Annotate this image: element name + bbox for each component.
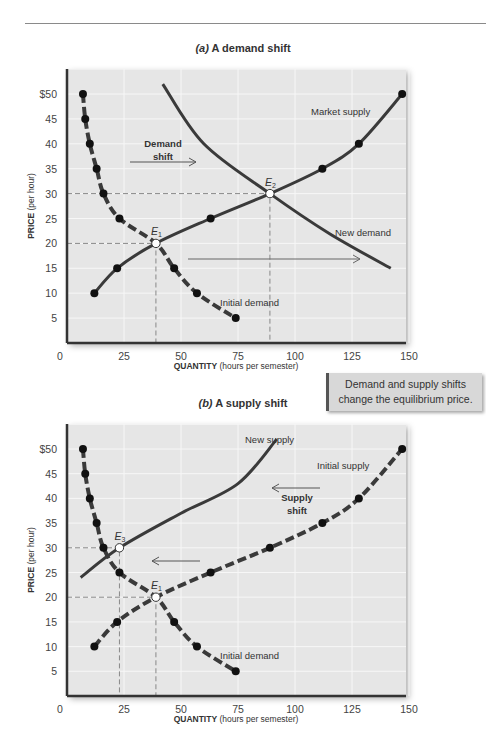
y-tick: 5 [51,665,57,677]
equilibrium-point [115,544,123,552]
data-point [115,569,123,577]
y-tick: 35 [45,517,57,529]
chart-b-supply-shift: E1E3New supplyInitial supplyInitial dema… [0,0,486,755]
data-point [90,643,98,651]
equilibrium-point [152,593,160,601]
new-supply-label: New supply [245,434,294,445]
y-axis-label-b: PRICE (per hour) [26,527,36,593]
y-tick: 40 [45,492,57,504]
y-tick: 15 [45,616,57,628]
y-tick: 10 [45,641,57,653]
data-point [193,643,201,651]
data-point [170,618,178,626]
data-point [93,519,101,527]
data-point [207,569,215,577]
data-point [81,470,89,478]
data-point [99,544,107,552]
y-tick: $50 [39,443,57,455]
initial-supply-label: Initial supply [317,460,370,471]
x-tick: 150 [400,703,418,715]
y-tick: 45 [45,468,57,480]
supply-shift-label-2: shift [287,505,308,516]
x-tick: 125 [343,703,361,715]
data-point [355,494,363,502]
data-point [398,445,406,453]
data-point [266,544,274,552]
data-point [79,445,87,453]
x-axis-label-b: QUANTITY (hours per semester) [174,714,299,724]
data-point [232,667,240,675]
x-tick: 0 [57,703,63,715]
y-tick: 20 [45,591,57,603]
data-point [318,519,326,527]
data-point [86,494,94,502]
x-tick: 25 [118,703,130,715]
y-tick: 30 [45,542,57,554]
data-point [113,618,121,626]
supply-shift-label: Supply [281,492,313,503]
initial-demand-label: Initial demand [220,650,279,661]
y-tick: 25 [45,567,57,579]
